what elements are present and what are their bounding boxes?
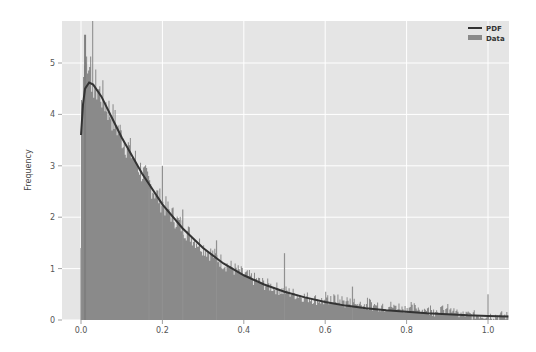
y-tick-label: 2	[50, 213, 55, 222]
y-axis-label: Frequency	[24, 149, 33, 191]
legend-pdf-label: PDF	[486, 25, 502, 33]
legend-data-swatch	[468, 35, 482, 40]
y-tick-label: 4	[50, 110, 55, 119]
histogram-spike	[182, 209, 183, 320]
histogram-spike	[80, 248, 81, 320]
histogram-spike	[284, 253, 285, 320]
histogram-chart: 012345 0.00.20.40.60.81.0 Frequency PDF …	[0, 0, 536, 352]
y-tick-label: 0	[50, 316, 55, 325]
peak-spike	[84, 35, 86, 320]
histogram-spike	[148, 189, 149, 320]
x-tick-label: 0.8	[400, 326, 413, 335]
x-tick-label: 0.0	[75, 326, 88, 335]
x-tick-label: 0.4	[237, 326, 250, 335]
y-tick-label: 5	[50, 59, 55, 68]
y-axis-ticks: 012345	[50, 59, 62, 325]
x-tick-label: 0.6	[319, 326, 332, 335]
histogram-spike	[216, 240, 217, 320]
x-axis-ticks: 0.00.20.40.60.81.0	[75, 320, 495, 335]
histogram-spike	[352, 287, 353, 320]
y-tick-label: 3	[50, 162, 55, 171]
x-tick-label: 1.0	[482, 326, 495, 335]
histogram-spike	[162, 166, 163, 320]
y-tick-label: 1	[50, 265, 55, 274]
x-tick-label: 0.2	[156, 326, 169, 335]
legend-data-label: Data	[486, 35, 505, 43]
